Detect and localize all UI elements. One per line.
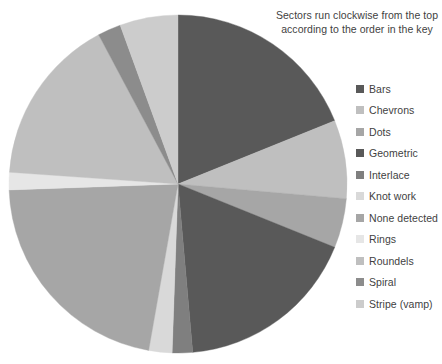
legend-item-label: Bars [369, 83, 391, 95]
legend-item[interactable]: None detected [356, 207, 442, 229]
legend-swatch-icon [356, 106, 364, 114]
legend-item[interactable]: Dots [356, 121, 442, 143]
legend-swatch-icon [356, 235, 364, 243]
legend-item-label: Roundels [369, 255, 414, 267]
legend-item-label: Interlace [369, 169, 410, 181]
legend-swatch-icon [356, 149, 364, 157]
legend-item[interactable]: Spiral [356, 272, 442, 294]
legend-item[interactable]: Geometric [356, 143, 442, 165]
pie-plot-area [0, 0, 356, 364]
legend-item-label: Chevrons [369, 104, 414, 116]
legend-item-label: None detected [369, 212, 438, 224]
legend-item-label: Dots [369, 126, 391, 138]
legend-item-label: Knot work [369, 190, 416, 202]
pie-slice[interactable] [9, 184, 178, 350]
annotation-line-2: according to the order in the key [272, 22, 442, 36]
legend-swatch-icon [356, 192, 364, 200]
chart-legend: BarsChevronsDotsGeometricInterlaceKnot w… [356, 78, 442, 315]
legend-item[interactable]: Bars [356, 78, 442, 100]
legend-item[interactable]: Roundels [356, 250, 442, 272]
legend-swatch-icon [356, 128, 364, 136]
pie-chart-figure: Sectors run clockwise from the top accor… [0, 0, 442, 364]
legend-item[interactable]: Interlace [356, 164, 442, 186]
legend-item[interactable]: Stripe (vamp) [356, 293, 442, 315]
legend-item[interactable]: Chevrons [356, 100, 442, 122]
legend-item-label: Rings [369, 233, 396, 245]
chart-annotation: Sectors run clockwise from the top accor… [272, 8, 442, 36]
legend-swatch-icon [356, 278, 364, 286]
legend-swatch-icon [356, 171, 364, 179]
legend-item-label: Spiral [369, 276, 396, 288]
legend-item[interactable]: Knot work [356, 186, 442, 208]
pie-svg [0, 0, 356, 364]
legend-swatch-icon [356, 300, 364, 308]
legend-item-label: Stripe (vamp) [369, 298, 433, 310]
legend-swatch-icon [356, 85, 364, 93]
legend-item[interactable]: Rings [356, 229, 442, 251]
annotation-line-1: Sectors run clockwise from the top [272, 8, 442, 22]
legend-swatch-icon [356, 257, 364, 265]
legend-item-label: Geometric [369, 147, 418, 159]
pie-slice-group [9, 15, 347, 353]
legend-swatch-icon [356, 214, 364, 222]
